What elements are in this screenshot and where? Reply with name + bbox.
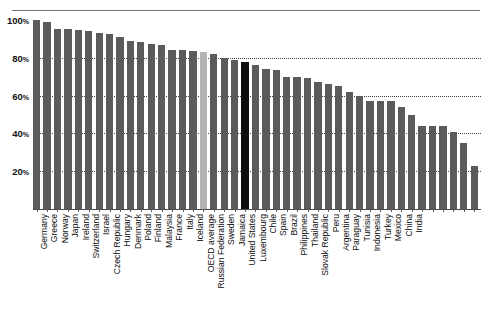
x-axis-tick bbox=[318, 209, 319, 212]
x-axis-tick bbox=[391, 209, 392, 212]
x-axis-tick bbox=[78, 209, 79, 212]
x-axis-label: Sweden bbox=[227, 214, 236, 245]
bar bbox=[273, 70, 280, 209]
x-axis-tick bbox=[99, 209, 100, 212]
bar bbox=[429, 126, 436, 209]
x-axis-tick bbox=[172, 209, 173, 212]
x-axis-tick bbox=[37, 209, 38, 212]
bar bbox=[54, 29, 61, 209]
y-axis-tick-label: 20% bbox=[12, 166, 29, 177]
bar bbox=[137, 42, 144, 209]
y-axis-tick-label: 80% bbox=[12, 52, 29, 63]
bar bbox=[106, 34, 113, 209]
x-axis-tick bbox=[141, 209, 142, 212]
x-axis-label: United States bbox=[248, 214, 257, 266]
x-axis-tick bbox=[224, 209, 225, 212]
bar bbox=[221, 58, 228, 209]
x-axis-tick bbox=[370, 209, 371, 212]
bar bbox=[75, 30, 82, 209]
x-axis-label: Hungary bbox=[123, 214, 132, 246]
y-axis-tick-labels: 20%40%60%80%100% bbox=[0, 0, 31, 314]
bar bbox=[450, 132, 457, 209]
x-axis-tick bbox=[266, 209, 267, 212]
x-axis-tick bbox=[120, 209, 121, 212]
plot-area bbox=[33, 20, 481, 209]
x-axis-label: Japan bbox=[71, 214, 80, 237]
x-axis-tick bbox=[308, 209, 309, 212]
bar bbox=[210, 54, 217, 209]
bar bbox=[64, 29, 71, 209]
x-axis-tick bbox=[349, 209, 350, 212]
bar bbox=[168, 50, 175, 209]
x-axis-label: Spain bbox=[279, 214, 288, 236]
top-divider-rule bbox=[12, 10, 480, 11]
bar bbox=[398, 107, 405, 209]
bar bbox=[158, 45, 165, 209]
bar bbox=[200, 52, 207, 209]
bar bbox=[325, 84, 332, 209]
x-axis-tick bbox=[47, 209, 48, 212]
x-axis-label: Israel bbox=[102, 214, 111, 235]
x-axis-tick bbox=[203, 209, 204, 212]
bar bbox=[231, 60, 238, 209]
bar bbox=[262, 69, 269, 209]
x-axis-tick bbox=[297, 209, 298, 212]
x-axis-label: Iceland bbox=[196, 214, 205, 242]
bar bbox=[346, 92, 353, 209]
x-axis-tick bbox=[276, 209, 277, 212]
bar bbox=[471, 166, 478, 209]
bar bbox=[189, 51, 196, 209]
bar bbox=[304, 78, 311, 209]
y-axis-tick-label: 100% bbox=[7, 15, 29, 26]
bar bbox=[356, 96, 363, 209]
x-axis-label: Switzerland bbox=[92, 214, 101, 258]
x-axis-baseline bbox=[33, 209, 481, 210]
x-axis-label: Poland bbox=[144, 214, 153, 241]
x-axis-tick bbox=[328, 209, 329, 212]
x-axis-tick bbox=[453, 209, 454, 212]
bar bbox=[43, 22, 50, 209]
x-axis-tick bbox=[68, 209, 69, 212]
y-axis-tick-label: 40% bbox=[12, 128, 29, 139]
x-axis-label: Mexico bbox=[394, 214, 403, 241]
x-axis-label: Indonesia bbox=[373, 214, 382, 251]
bar bbox=[460, 143, 467, 209]
x-axis-label: Thailand bbox=[311, 214, 320, 247]
bar bbox=[179, 50, 186, 209]
x-axis-tick bbox=[183, 209, 184, 212]
x-axis-label: Brazil bbox=[290, 214, 299, 236]
x-axis-tick bbox=[255, 209, 256, 212]
x-axis-label: Russian Federation bbox=[217, 214, 226, 289]
bar-chart: 20%40%60%80%100% GermanyGreeceNorwayJapa… bbox=[0, 0, 495, 314]
bar bbox=[387, 101, 394, 209]
bar bbox=[366, 101, 373, 209]
bar bbox=[314, 82, 321, 209]
x-axis-tick bbox=[401, 209, 402, 212]
bar bbox=[252, 65, 259, 209]
bar bbox=[408, 115, 415, 210]
x-axis-label: Luxembourg bbox=[259, 214, 268, 262]
x-axis-tick bbox=[287, 209, 288, 212]
bar bbox=[116, 37, 123, 209]
bar bbox=[127, 41, 134, 209]
x-axis-tick bbox=[360, 209, 361, 212]
x-axis-label: China bbox=[405, 214, 414, 236]
x-axis-tick bbox=[110, 209, 111, 212]
x-axis-tick bbox=[245, 209, 246, 212]
x-axis-tick bbox=[57, 209, 58, 212]
bar bbox=[283, 77, 290, 209]
x-axis-tick bbox=[130, 209, 131, 212]
bar bbox=[439, 126, 446, 209]
x-axis-tick bbox=[412, 209, 413, 212]
bar bbox=[335, 86, 342, 209]
bar bbox=[377, 101, 384, 209]
bar bbox=[85, 31, 92, 209]
x-axis-label: Philippines bbox=[300, 214, 309, 256]
x-axis-tick bbox=[193, 209, 194, 212]
x-axis-label: Malaysia bbox=[165, 214, 174, 248]
x-axis-tick bbox=[464, 209, 465, 212]
x-axis-label: Turkey bbox=[384, 214, 393, 240]
x-axis-label: Germany bbox=[40, 214, 49, 249]
x-axis-tick bbox=[89, 209, 90, 212]
bar bbox=[293, 77, 300, 209]
